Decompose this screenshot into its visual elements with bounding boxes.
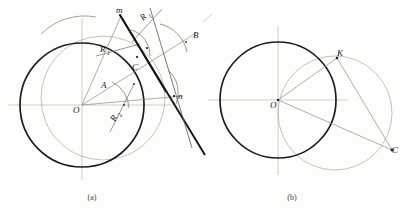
leader-R2	[110, 84, 134, 132]
stray-tick-b	[203, 14, 212, 22]
panel-caption-b: (b)	[287, 193, 297, 202]
bold-chord-m-to-n	[120, 15, 166, 92]
label-R1-upper: R	[137, 11, 149, 23]
ray-O-to-m	[82, 16, 121, 105]
label-R1-left-subscript: 1	[107, 50, 110, 56]
point-B-dot	[185, 41, 187, 43]
label-O-b: O	[270, 100, 277, 110]
panel-caption-a: (a)	[88, 193, 97, 202]
label-n: n	[178, 91, 183, 101]
point-C-dot	[136, 56, 138, 58]
compass-arc-B	[160, 24, 187, 52]
point-A-dot	[123, 104, 125, 106]
label-R2-group: R 2	[107, 109, 123, 124]
segment-K-C	[337, 58, 392, 150]
point-n	[173, 95, 175, 97]
label-C-b: C	[392, 145, 399, 155]
compass-arc-upper	[131, 30, 150, 56]
label-K: K	[336, 48, 344, 58]
label-C: C	[132, 62, 139, 72]
point-mid-dot	[133, 83, 135, 85]
label-A: A	[100, 80, 107, 90]
geometry-figure: O m R 1 R 1 R 2 A B C n (a)	[0, 0, 405, 218]
compass-arc-n	[168, 70, 178, 104]
compass-arc-top-left	[41, 16, 96, 34]
secondary-circle-a	[41, 36, 165, 160]
label-B: B	[193, 30, 199, 40]
segment-O-K	[278, 58, 337, 100]
figure-container: O m R 1 R 1 R 2 A B C n (a)	[0, 0, 405, 218]
panel-a: O m R 1 R 1 R 2 A B C n (a)	[8, 5, 205, 202]
point-upper-intersection	[146, 47, 148, 49]
label-R1-left: R	[99, 44, 106, 54]
panel-b: O K C (b)	[203, 14, 399, 202]
point-O-b	[277, 99, 279, 101]
ray-O-to-n	[82, 96, 183, 105]
compass-arc-A	[112, 82, 129, 108]
label-m: m	[116, 5, 123, 15]
label-O: O	[73, 105, 80, 115]
